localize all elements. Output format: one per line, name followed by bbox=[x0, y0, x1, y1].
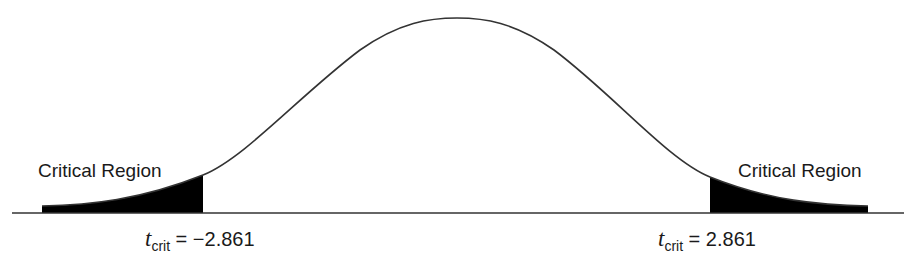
left-critical-region-label: Critical Region bbox=[38, 160, 162, 182]
left-tcrit-label: tcrit = −2.861 bbox=[145, 226, 255, 252]
left-tcrit-value: −2.861 bbox=[193, 228, 255, 250]
equals-sign: = bbox=[683, 228, 706, 250]
right-critical-region-shading bbox=[710, 177, 868, 213]
t-distribution-diagram bbox=[0, 0, 922, 260]
right-critical-region-label: Critical Region bbox=[738, 160, 862, 182]
right-tcrit-label: tcrit = 2.861 bbox=[658, 226, 756, 252]
right-tcrit-value: 2.861 bbox=[706, 228, 756, 250]
crit-subscript: crit bbox=[664, 238, 683, 254]
equals-sign: = bbox=[170, 228, 193, 250]
crit-subscript: crit bbox=[151, 238, 170, 254]
